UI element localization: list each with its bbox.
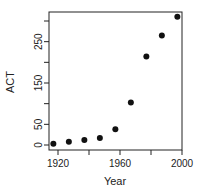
data-point (81, 137, 87, 143)
scatter-chart: 050150250 192019602000 Year ACT (0, 0, 203, 194)
data-point (112, 126, 118, 132)
x-tick-label: 1960 (109, 158, 132, 169)
data-point (66, 139, 72, 145)
data-point (174, 14, 180, 20)
data-point (50, 141, 56, 147)
data-point (97, 135, 103, 141)
data-point (128, 99, 134, 105)
y-tick-label: 150 (33, 74, 44, 91)
y-tick-label: 250 (33, 33, 44, 50)
y-axis: 050150250 (33, 21, 50, 148)
data-point (159, 32, 165, 38)
y-axis-label: ACT (4, 71, 16, 93)
data-point (143, 54, 149, 60)
x-tick-label: 1920 (47, 158, 70, 169)
y-tick-label: 50 (33, 118, 44, 130)
data-points (50, 14, 180, 147)
y-tick-label: 0 (33, 142, 44, 148)
x-axis: 192019602000 (47, 150, 194, 169)
x-tick-label: 2000 (171, 158, 194, 169)
x-axis-label: Year (104, 175, 127, 187)
